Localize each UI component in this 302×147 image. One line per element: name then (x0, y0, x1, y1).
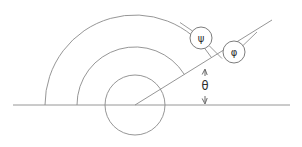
phi-label: φ (231, 47, 238, 58)
theta-label: θ (201, 79, 208, 93)
inner-arc (77, 47, 184, 105)
outer-arc (45, 15, 212, 105)
diagram-canvas: θ ψ φ (0, 0, 302, 147)
psi-badge: ψ (190, 27, 212, 49)
psi-label: ψ (198, 33, 205, 44)
phi-badge: φ (223, 41, 245, 63)
angle-diagram-figure: θ ψ φ (0, 0, 302, 147)
psi-leader-to-outer-arc (180, 23, 193, 32)
